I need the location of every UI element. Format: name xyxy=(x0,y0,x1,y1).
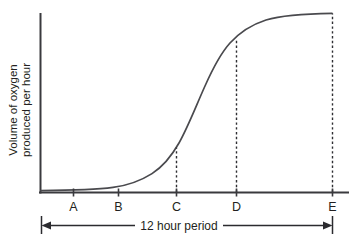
y-axis-label: Volume of oxygen produced per hour xyxy=(7,63,32,157)
x-tick-label-e: E xyxy=(328,200,336,214)
y-axis-label-line2: produced per hour xyxy=(20,63,32,157)
x-tick-label-b: B xyxy=(114,200,122,214)
y-axis-label-line1: Volume of oxygen xyxy=(7,64,19,155)
oxygen-curve xyxy=(41,13,332,190)
x-tick-label-c: C xyxy=(172,200,181,214)
span-label: 12 hour period xyxy=(140,219,217,233)
oxygen-production-chart: A B C D E 12 hour period Volume of oxyge… xyxy=(0,0,355,244)
span-arrow-left xyxy=(42,222,52,230)
span-arrow-right xyxy=(323,222,333,230)
x-tick-label-d: D xyxy=(232,200,241,214)
chart-figure: A B C D E 12 hour period Volume of oxyge… xyxy=(0,0,355,244)
x-tick-label-a: A xyxy=(69,200,78,214)
